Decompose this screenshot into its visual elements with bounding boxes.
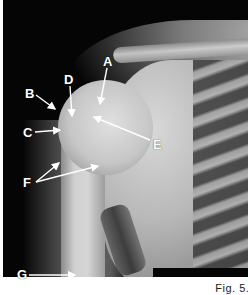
- ribs: [193, 60, 248, 277]
- label-a: A: [103, 55, 112, 68]
- label-g: G: [17, 268, 27, 281]
- label-d: D: [64, 73, 73, 86]
- redaction-bar: [153, 268, 248, 277]
- humeral-head: [58, 80, 153, 175]
- figure: A B C D E F G Fig. 5.3: [0, 0, 248, 295]
- xray-image: [3, 0, 248, 277]
- label-b: B: [25, 87, 34, 100]
- label-f: F: [23, 176, 31, 189]
- label-c: C: [23, 126, 32, 139]
- figure-caption: Fig. 5.3: [215, 282, 248, 294]
- label-e: E: [153, 138, 162, 151]
